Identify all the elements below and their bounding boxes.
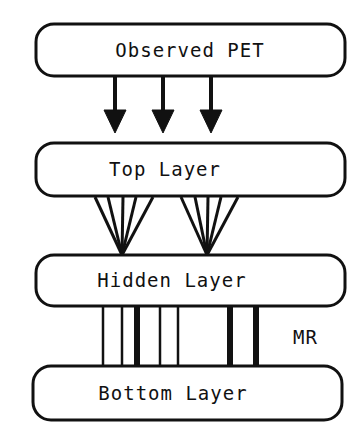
mr-label: MR <box>293 326 318 348</box>
bottom-layer-label: Bottom Layer <box>98 382 247 404</box>
observed-pet-layer: Observed PET <box>36 24 345 76</box>
mr-bars <box>103 307 256 366</box>
layer-diagram: Observed PET Top Layer Hidden Layer <box>0 0 360 434</box>
observed-pet-label: Observed PET <box>115 39 264 61</box>
fan-connections <box>95 197 238 255</box>
bottom-layer: Bottom Layer <box>33 366 342 420</box>
hidden-layer: Hidden Layer <box>36 255 345 306</box>
top-layer-label: Top Layer <box>109 158 221 180</box>
top-layer: Top Layer <box>36 143 345 196</box>
down-arrows <box>104 77 222 133</box>
hidden-layer-label: Hidden Layer <box>97 269 246 291</box>
